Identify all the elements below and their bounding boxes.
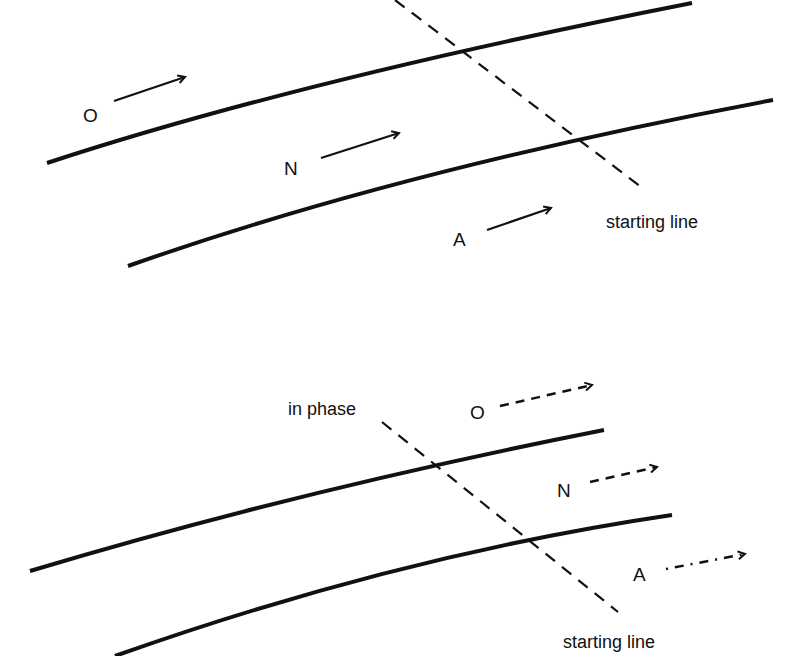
- bottom-label-a: A: [633, 565, 646, 584]
- diagram-canvas: [0, 0, 807, 656]
- top-label-o: O: [83, 106, 98, 125]
- top-label-a: A: [453, 230, 466, 249]
- top-arrow-a-icon: [487, 208, 551, 230]
- top-lower-boundary-line: [128, 100, 773, 266]
- top-arrow-n-icon: [321, 133, 399, 158]
- bottom-label-n: N: [557, 481, 571, 500]
- bottom-starting-line-label: starting line: [563, 633, 655, 651]
- top-starting-dashed-line: [395, 0, 645, 190]
- bottom-label-o: O: [470, 403, 485, 422]
- bottom-arrow-a-icon: [666, 554, 745, 569]
- bottom-arrow-o-icon: [500, 385, 592, 406]
- top-arrow-o-icon: [114, 77, 185, 101]
- bottom-panel: [30, 385, 745, 656]
- in-phase-label: in phase: [288, 400, 356, 418]
- top-label-n: N: [284, 159, 298, 178]
- top-starting-line-label: starting line: [606, 213, 698, 231]
- bottom-arrow-n-icon: [590, 467, 657, 482]
- bottom-upper-boundary-line: [30, 430, 604, 571]
- top-upper-boundary-line: [47, 3, 692, 163]
